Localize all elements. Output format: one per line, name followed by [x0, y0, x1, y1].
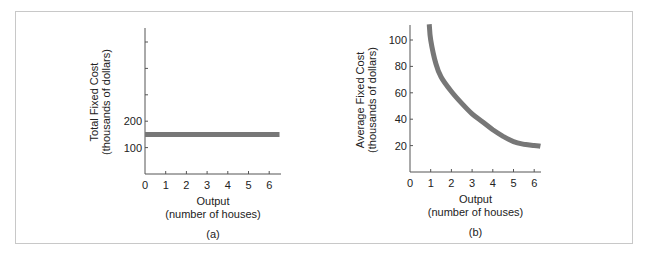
x-axis-title: Output — [459, 193, 492, 205]
y-tick-label: 80 — [395, 60, 407, 72]
panel-label: (a) — [206, 228, 219, 240]
x-tick-label: 6 — [531, 177, 537, 189]
x-tick-label: 6 — [266, 179, 272, 191]
x-tick-label: 1 — [163, 179, 169, 191]
x-axis-subtitle: (number of houses) — [165, 208, 260, 220]
y-axis-title: Total Fixed Cost — [88, 63, 100, 142]
x-tick-label: 4 — [490, 177, 496, 189]
x-tick-label: 3 — [204, 179, 210, 191]
panel-label: (b) — [469, 226, 482, 238]
y-tick-label: 60 — [395, 87, 407, 99]
x-tick-label: 4 — [225, 179, 231, 191]
x-tick-label: 5 — [510, 177, 516, 189]
x-axis-subtitle: (number of houses) — [428, 206, 523, 218]
x-tick-label: 2 — [448, 177, 454, 189]
x-axis-title: Output — [196, 195, 229, 207]
x-tick-label: 0 — [407, 177, 413, 189]
y-axis-subtitle: (thousands of dollars) — [366, 47, 378, 153]
figures-canvas: 0123456100200Output(number of houses)(a)… — [0, 0, 651, 261]
x-tick-label: 5 — [245, 179, 251, 191]
x-tick-label: 2 — [183, 179, 189, 191]
y-tick-label: 40 — [395, 113, 407, 125]
y-tick-label: 200 — [124, 115, 142, 127]
data-line — [429, 24, 540, 146]
y-tick-label: 20 — [395, 140, 407, 152]
y-axis-subtitle: (thousands of dollars) — [100, 49, 112, 155]
y-axis-title: Average Fixed Cost — [354, 52, 366, 148]
chart-total-fixed-cost: 0123456100200Output(number of houses)(a)… — [88, 28, 281, 240]
x-tick-label: 3 — [469, 177, 475, 189]
x-tick-label: 1 — [428, 177, 434, 189]
y-tick-label: 100 — [389, 34, 407, 46]
y-tick-label: 100 — [124, 142, 142, 154]
x-tick-label: 0 — [142, 179, 148, 191]
chart-average-fixed-cost: 012345620406080100Output(number of house… — [354, 24, 541, 238]
